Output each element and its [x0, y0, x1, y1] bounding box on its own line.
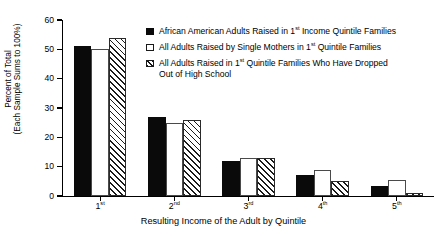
- x-tick-label: 4th: [303, 201, 343, 211]
- bar: [388, 180, 406, 196]
- bar: [74, 46, 92, 196]
- legend-item: All Adults Raised in 1st Quintile Famili…: [146, 58, 442, 79]
- bar: [406, 193, 424, 196]
- y-tick-mark: [57, 19, 62, 20]
- legend-item-label: All Adults Raised by Single Mothers in 1…: [159, 42, 381, 52]
- chart-legend: African American Adults Raised in 1st In…: [146, 26, 442, 80]
- y-tick-mark: [57, 166, 62, 167]
- bar-group: [74, 20, 127, 196]
- bar: [109, 38, 127, 196]
- legend-item-label: All Adults Raised in 1st Quintile Famili…: [159, 58, 388, 68]
- x-tick-label: 1st: [80, 201, 120, 211]
- y-tick-mark: [57, 78, 62, 79]
- legend-swatch-solid: [146, 28, 154, 36]
- bar: [148, 117, 166, 196]
- bar-chart-figure: Percent of Total (Each Sample Sums to 10…: [0, 0, 447, 236]
- bar: [240, 158, 258, 196]
- bar: [222, 161, 240, 196]
- bar: [296, 175, 314, 196]
- x-tick-label: 2nd: [154, 201, 194, 211]
- bar: [331, 181, 349, 196]
- y-tick-label: 0: [30, 191, 54, 201]
- y-tick-mark: [57, 107, 62, 108]
- legend-item-label: African American Adults Raised in 1st In…: [159, 26, 396, 36]
- y-tick-label: 50: [30, 44, 54, 54]
- bar: [314, 170, 332, 196]
- bar: [166, 123, 184, 196]
- y-tick-mark: [57, 137, 62, 138]
- legend-swatch-open: [146, 44, 154, 52]
- y-tick-label: 40: [30, 73, 54, 83]
- y-axis-title-line2: (Each Sample Sums to 100%): [13, 0, 22, 164]
- bar: [257, 158, 275, 196]
- bar: [183, 120, 201, 196]
- y-tick-label: 10: [30, 161, 54, 171]
- bar: [91, 49, 109, 196]
- x-tick-label: 5th: [377, 201, 417, 211]
- y-axis-title-line1: Percent of Total: [4, 0, 13, 164]
- bar: [371, 186, 389, 196]
- x-axis-title: Resulting Income of the Adult by Quintil…: [0, 216, 447, 226]
- y-tick-mark: [57, 49, 62, 50]
- y-tick-label: 60: [30, 15, 54, 25]
- legend-item: All Adults Raised by Single Mothers in 1…: [146, 42, 442, 53]
- legend-item: African American Adults Raised in 1st In…: [146, 26, 442, 37]
- y-tick-label: 30: [30, 103, 54, 113]
- y-tick-label: 20: [30, 132, 54, 142]
- legend-item-label-continued: Out of High School: [159, 69, 442, 80]
- legend-swatch-hatch: [146, 60, 154, 68]
- y-tick-mark: [57, 195, 62, 196]
- x-tick-label: 3rd: [229, 201, 269, 211]
